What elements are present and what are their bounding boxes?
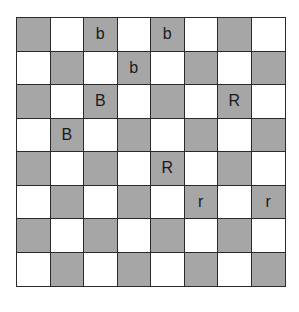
board-square-r6-c0[interactable] bbox=[17, 219, 51, 253]
board-square-r3-c0[interactable] bbox=[17, 119, 51, 153]
board-square-r2-c5[interactable] bbox=[185, 85, 219, 119]
board-square-r7-c7[interactable] bbox=[252, 253, 286, 287]
board-square-r0-c3[interactable] bbox=[118, 18, 152, 52]
board-square-r4-c5[interactable] bbox=[185, 152, 219, 186]
board-square-r5-c7[interactable]: r bbox=[252, 186, 286, 220]
board-square-r5-c1[interactable] bbox=[51, 186, 85, 220]
board-square-r6-c1[interactable] bbox=[51, 219, 85, 253]
board-square-r5-c3[interactable] bbox=[118, 186, 152, 220]
board-square-r6-c7[interactable] bbox=[252, 219, 286, 253]
piece-label: B bbox=[95, 92, 106, 110]
board-square-r5-c2[interactable] bbox=[84, 186, 118, 220]
board-square-r6-c2[interactable] bbox=[84, 219, 118, 253]
board-square-r0-c5[interactable] bbox=[185, 18, 219, 52]
piece-label: b bbox=[129, 59, 138, 77]
board-square-r1-c0[interactable] bbox=[17, 52, 51, 86]
board-square-r6-c3[interactable] bbox=[118, 219, 152, 253]
board-square-r0-c2[interactable]: b bbox=[84, 18, 118, 52]
board-square-r0-c1[interactable] bbox=[51, 18, 85, 52]
board-square-r7-c0[interactable] bbox=[17, 253, 51, 287]
board-square-r3-c2[interactable] bbox=[84, 119, 118, 153]
board-square-r7-c6[interactable] bbox=[218, 253, 252, 287]
piece-label: R bbox=[228, 92, 240, 110]
board-square-r4-c1[interactable] bbox=[51, 152, 85, 186]
board-square-r6-c4[interactable] bbox=[151, 219, 185, 253]
board-square-r7-c2[interactable] bbox=[84, 253, 118, 287]
board-square-r5-c5[interactable]: r bbox=[185, 186, 219, 220]
board-square-r1-c5[interactable] bbox=[185, 52, 219, 86]
board-square-r6-c6[interactable] bbox=[218, 219, 252, 253]
board-square-r1-c4[interactable] bbox=[151, 52, 185, 86]
board-square-r2-c7[interactable] bbox=[252, 85, 286, 119]
board-square-r7-c1[interactable] bbox=[51, 253, 85, 287]
piece-label: B bbox=[61, 126, 72, 144]
board-square-r4-c0[interactable] bbox=[17, 152, 51, 186]
board-square-r1-c1[interactable] bbox=[51, 52, 85, 86]
board-square-r2-c1[interactable] bbox=[51, 85, 85, 119]
game-board: bbbBRBRrr bbox=[16, 17, 286, 287]
board-square-r3-c7[interactable] bbox=[252, 119, 286, 153]
board-square-r4-c3[interactable] bbox=[118, 152, 152, 186]
board-square-r4-c7[interactable] bbox=[252, 152, 286, 186]
piece-label: r bbox=[266, 193, 271, 211]
board-square-r1-c3[interactable]: b bbox=[118, 52, 152, 86]
board-square-r3-c3[interactable] bbox=[118, 119, 152, 153]
board-square-r2-c4[interactable] bbox=[151, 85, 185, 119]
board-square-r2-c0[interactable] bbox=[17, 85, 51, 119]
board-square-r2-c3[interactable] bbox=[118, 85, 152, 119]
piece-label: b bbox=[163, 25, 172, 43]
board-square-r0-c6[interactable] bbox=[218, 18, 252, 52]
board-square-r7-c3[interactable] bbox=[118, 253, 152, 287]
board-square-r2-c6[interactable]: R bbox=[218, 85, 252, 119]
board-square-r7-c4[interactable] bbox=[151, 253, 185, 287]
board-square-r0-c7[interactable] bbox=[252, 18, 286, 52]
board-square-r3-c6[interactable] bbox=[218, 119, 252, 153]
board-square-r3-c4[interactable] bbox=[151, 119, 185, 153]
board-square-r5-c6[interactable] bbox=[218, 186, 252, 220]
board-square-r7-c5[interactable] bbox=[185, 253, 219, 287]
board-square-r3-c5[interactable] bbox=[185, 119, 219, 153]
board-square-r5-c4[interactable] bbox=[151, 186, 185, 220]
board-square-r4-c4[interactable]: R bbox=[151, 152, 185, 186]
board-square-r5-c0[interactable] bbox=[17, 186, 51, 220]
piece-label: b bbox=[96, 25, 105, 43]
piece-label: r bbox=[198, 193, 203, 211]
board-square-r6-c5[interactable] bbox=[185, 219, 219, 253]
piece-label: R bbox=[161, 159, 173, 177]
board-square-r0-c0[interactable] bbox=[17, 18, 51, 52]
board-square-r3-c1[interactable]: B bbox=[51, 119, 85, 153]
board-square-r1-c2[interactable] bbox=[84, 52, 118, 86]
board-square-r0-c4[interactable]: b bbox=[151, 18, 185, 52]
board-square-r1-c7[interactable] bbox=[252, 52, 286, 86]
board-square-r1-c6[interactable] bbox=[218, 52, 252, 86]
board-square-r4-c6[interactable] bbox=[218, 152, 252, 186]
board-square-r2-c2[interactable]: B bbox=[84, 85, 118, 119]
board-square-r4-c2[interactable] bbox=[84, 152, 118, 186]
